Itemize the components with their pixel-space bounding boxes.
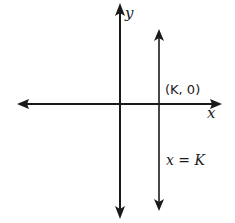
vertical-line-equation-label: x = K (166, 153, 205, 167)
axes-graphic (0, 0, 235, 223)
y-axis-label: y (125, 6, 133, 21)
y-axis (115, 3, 125, 219)
coordinate-plane-diagram: y (K, 0) x x = K (0, 0, 235, 223)
x-axis-label: x (207, 106, 215, 121)
vertical-line-x-equals-k (154, 29, 164, 211)
intercept-label: (K, 0) (165, 83, 200, 96)
